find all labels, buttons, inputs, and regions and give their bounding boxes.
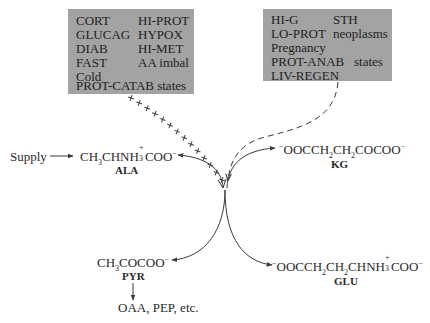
- stimulator-cross-mark: [151, 110, 159, 118]
- ala-formula: CH3CHNH+3COO−: [80, 149, 177, 164]
- pathway-arrows: [0, 0, 430, 323]
- stimulator-cross-chain: [127, 94, 226, 188]
- pyr-label: PYR: [122, 270, 145, 282]
- supply-label: Supply: [10, 149, 47, 164]
- dashed-inhibitor-line: [228, 82, 338, 180]
- glu-formula: −OOCCH2CH2CHNH+3COO−: [272, 259, 423, 274]
- kg-label: KG: [331, 158, 348, 170]
- arc-to-kg: [227, 148, 275, 188]
- stimulator-cross-mark: [166, 121, 174, 129]
- arc-to-pyr: [172, 190, 225, 260]
- stimulator-cross-mark: [143, 104, 151, 112]
- products-label: OAA, PEP, etc.: [118, 300, 199, 315]
- stimulator-cross-mark: [135, 99, 143, 107]
- stimulator-cross-mark: [127, 94, 135, 102]
- arc-to-glu: [225, 190, 272, 265]
- stimulator-cross-mark: [159, 116, 167, 124]
- ala-label: ALA: [115, 164, 138, 176]
- stimulator-cross-mark: [206, 161, 214, 169]
- stimulator-cross-mark: [194, 147, 202, 155]
- pyr-formula: CH3COCOO−: [97, 255, 169, 270]
- stimulator-cross-mark: [180, 134, 188, 142]
- kg-formula: −OOCCH2CH2COCOO−: [279, 142, 405, 157]
- stimulator-cross-mark: [173, 128, 181, 136]
- glu-label: GLU: [334, 275, 358, 287]
- stimulator-cross-mark: [187, 140, 195, 148]
